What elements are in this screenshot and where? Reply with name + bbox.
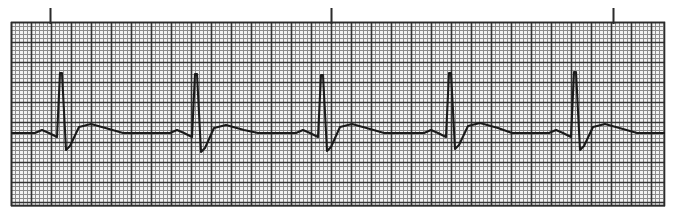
ecg-strip-container: ECG Rhythm Strip	[0, 0, 677, 219]
ecg-rhythm-strip-canvas	[0, 0, 677, 219]
